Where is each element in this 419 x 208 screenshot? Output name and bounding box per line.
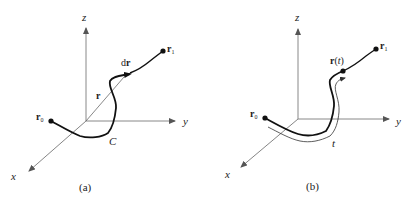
r0-label: r0 bbox=[36, 111, 43, 123]
end-point-r1 bbox=[373, 46, 378, 51]
arc-length-label: t bbox=[332, 137, 336, 149]
y-axis-label: y bbox=[182, 115, 188, 127]
position-vector-r bbox=[86, 77, 124, 121]
axes-b bbox=[241, 29, 389, 167]
start-point-r0 bbox=[48, 118, 53, 123]
z-axis-label: z bbox=[294, 11, 300, 23]
axes-a bbox=[29, 28, 175, 171]
x-axis bbox=[29, 121, 86, 171]
dr-label: dr bbox=[121, 57, 131, 68]
curve bbox=[265, 71, 343, 135]
rt-label: r(t) bbox=[330, 55, 344, 67]
panel-a: z y x r0 r1 r dr C (a) bbox=[10, 11, 188, 194]
curve-c-tail bbox=[130, 51, 163, 73]
x-axis-label: x bbox=[10, 170, 16, 182]
position-vector-label: r bbox=[96, 90, 101, 101]
y-axis-label: y bbox=[395, 115, 401, 127]
panel-b: z y x r0 r1 r(t) t (b) bbox=[224, 11, 401, 193]
curve-label: C bbox=[109, 135, 117, 147]
figure-canvas: z y x r0 r1 r dr C (a) z y x bbox=[0, 0, 419, 208]
r1-label: r1 bbox=[380, 40, 387, 52]
caption-b: (b) bbox=[306, 180, 319, 193]
x-axis bbox=[241, 119, 298, 167]
param-point-rt bbox=[340, 68, 345, 73]
end-point-r1 bbox=[160, 48, 165, 53]
curve-tail bbox=[343, 49, 376, 71]
z-axis-label: z bbox=[81, 11, 87, 23]
r1-label: r1 bbox=[167, 43, 174, 55]
start-point-r0 bbox=[262, 115, 267, 120]
r0-label: r0 bbox=[250, 108, 257, 120]
caption-a: (a) bbox=[79, 181, 92, 194]
x-axis-label: x bbox=[224, 168, 230, 180]
